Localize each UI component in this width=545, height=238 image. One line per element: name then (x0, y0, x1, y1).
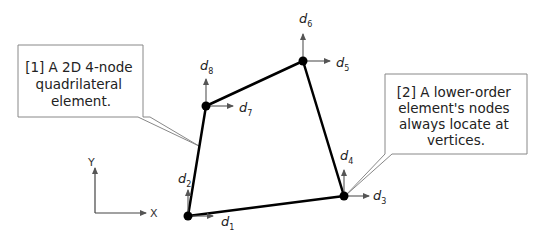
dof-label-d3: d3 (373, 188, 386, 206)
dof-label-d5: d5 (336, 55, 349, 73)
y-axis-label: Y (87, 156, 95, 169)
dof-label-d2: d2 (178, 171, 191, 189)
node-2 (340, 192, 349, 201)
quadrilateral-element-diagram: [1] A 2D 4-node quadrilateral element. [… (0, 0, 545, 238)
dof-label-d7: d7 (239, 100, 252, 118)
global-axes: Y X (87, 156, 158, 220)
dof-label-d8: d8 (200, 58, 213, 76)
nodes (184, 57, 349, 221)
callout-2: [2] A lower-order element's nodes always… (345, 74, 527, 196)
dof-label-d4: d4 (340, 148, 353, 166)
dof-label-d6: d6 (299, 11, 312, 29)
callout-1: [1] A 2D 4-node quadrilateral element. (18, 45, 199, 146)
element-edges (188, 61, 344, 216)
node-3 (299, 57, 308, 66)
node-1 (184, 212, 193, 221)
node-4 (202, 102, 211, 111)
dof-labels: d1 d2 d3 d4 d5 d6 d7 d8 (178, 11, 386, 232)
x-axis-label: X (150, 207, 158, 220)
dof-label-d1: d1 (221, 214, 234, 232)
